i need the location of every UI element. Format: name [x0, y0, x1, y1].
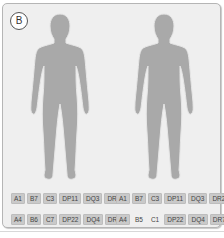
hla-tag: A4 [11, 214, 25, 225]
hla-tag: DQ4 [83, 214, 102, 225]
tag-row-right-2: A4 B5 C1 DP22 DQ4 DR7 [116, 214, 224, 225]
hla-tag: C7 [43, 214, 57, 225]
hla-tag-mismatch: B5 [132, 214, 146, 225]
tag-row-left-1: A1 B7 C3 DP11 DQ3 DR2 [11, 193, 123, 204]
diagram-panel: B A1 B7 C3 DP11 DQ3 DR2 A4 B6 C7 DP22 DQ… [2, 3, 221, 228]
hla-tag: C3 [148, 193, 162, 204]
human-figure-left [27, 12, 93, 184]
hla-tag: DP11 [59, 193, 81, 204]
hla-tag: DP22 [164, 214, 186, 225]
hla-tag: A4 [116, 214, 130, 225]
hla-tag: DQ4 [188, 214, 207, 225]
human-figure-right [131, 12, 197, 184]
hla-tag: A1 [116, 193, 130, 204]
hla-tag-mismatch: C1 [148, 214, 162, 225]
hla-tag: DQ3 [188, 193, 207, 204]
hla-tag: B7 [27, 193, 41, 204]
hla-tag: DP22 [59, 214, 81, 225]
panel-label: B [10, 12, 28, 30]
tag-row-left-2: A4 B6 C7 DP22 DQ4 DR7 [11, 214, 124, 225]
tag-row-right-1: A1 B7 C3 DP11 DQ3 DR2 [116, 193, 224, 204]
hla-tag: DQ3 [83, 193, 102, 204]
hla-tag: DP11 [164, 193, 186, 204]
hla-tag: B6 [27, 214, 41, 225]
hla-tag: DR7 [210, 214, 224, 225]
divider [0, 231, 224, 232]
hla-tag: C3 [43, 193, 57, 204]
hla-tag: A1 [11, 193, 25, 204]
hla-tag: B7 [132, 193, 146, 204]
hla-tag: DR2 [209, 193, 224, 204]
